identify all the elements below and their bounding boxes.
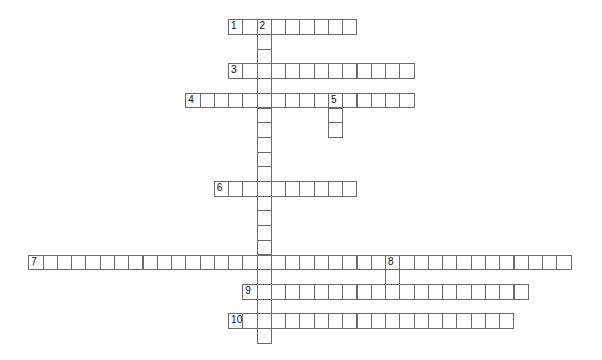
crossword-cell[interactable]: 1 xyxy=(228,19,243,35)
crossword-cell[interactable] xyxy=(442,313,457,329)
crossword-cell[interactable] xyxy=(414,255,429,271)
crossword-cell[interactable] xyxy=(442,255,457,271)
crossword-cell[interactable] xyxy=(271,255,286,271)
crossword-cell[interactable] xyxy=(471,284,486,300)
crossword-cell[interactable] xyxy=(399,313,414,329)
crossword-cell[interactable] xyxy=(357,63,372,79)
crossword-cell[interactable] xyxy=(456,255,471,271)
crossword-cell[interactable] xyxy=(342,19,357,35)
crossword-cell[interactable] xyxy=(385,313,400,329)
crossword-cell[interactable] xyxy=(514,284,529,300)
crossword-cell[interactable] xyxy=(114,255,129,271)
crossword-cell[interactable] xyxy=(371,93,386,109)
crossword-cell[interactable] xyxy=(257,240,272,256)
crossword-cell[interactable] xyxy=(314,181,329,197)
crossword-cell[interactable] xyxy=(314,284,329,300)
crossword-cell[interactable]: 6 xyxy=(214,181,229,197)
crossword-cell[interactable] xyxy=(157,255,172,271)
crossword-cell[interactable] xyxy=(328,63,343,79)
crossword-cell[interactable] xyxy=(257,313,272,329)
crossword-cell[interactable] xyxy=(556,255,571,271)
crossword-cell[interactable] xyxy=(57,255,72,271)
crossword-cell[interactable] xyxy=(285,284,300,300)
crossword-cell[interactable] xyxy=(299,63,314,79)
crossword-cell[interactable] xyxy=(257,152,272,168)
crossword-cell[interactable] xyxy=(285,63,300,79)
crossword-cell[interactable] xyxy=(271,181,286,197)
crossword-cell[interactable] xyxy=(342,93,357,109)
crossword-cell[interactable] xyxy=(328,255,343,271)
crossword-cell[interactable] xyxy=(271,63,286,79)
crossword-cell[interactable] xyxy=(328,108,343,124)
crossword-cell[interactable] xyxy=(399,284,414,300)
crossword-cell[interactable]: 9 xyxy=(242,284,257,300)
crossword-cell[interactable] xyxy=(371,255,386,271)
crossword-cell[interactable] xyxy=(257,108,272,124)
crossword-cell[interactable] xyxy=(342,284,357,300)
crossword-cell[interactable] xyxy=(299,93,314,109)
crossword-cell[interactable] xyxy=(342,63,357,79)
crossword-cell[interactable] xyxy=(257,225,272,241)
crossword-cell[interactable] xyxy=(428,284,443,300)
crossword-cell[interactable] xyxy=(357,284,372,300)
crossword-cell[interactable]: 4 xyxy=(185,93,200,109)
crossword-cell[interactable] xyxy=(271,19,286,35)
crossword-cell[interactable] xyxy=(299,284,314,300)
crossword-cell[interactable] xyxy=(456,284,471,300)
crossword-cell[interactable] xyxy=(328,181,343,197)
crossword-cell[interactable] xyxy=(285,255,300,271)
crossword-cell[interactable] xyxy=(314,19,329,35)
crossword-cell[interactable]: 7 xyxy=(28,255,43,271)
crossword-cell[interactable] xyxy=(399,93,414,109)
crossword-cell[interactable] xyxy=(299,19,314,35)
crossword-cell[interactable] xyxy=(242,313,257,329)
crossword-cell[interactable]: 8 xyxy=(385,255,400,271)
crossword-cell[interactable] xyxy=(228,255,243,271)
crossword-cell[interactable] xyxy=(299,313,314,329)
crossword-cell[interactable] xyxy=(328,19,343,35)
crossword-cell[interactable] xyxy=(314,255,329,271)
crossword-cell[interactable] xyxy=(428,255,443,271)
crossword-cell[interactable] xyxy=(471,255,486,271)
crossword-cell[interactable] xyxy=(399,63,414,79)
crossword-cell[interactable] xyxy=(200,255,215,271)
crossword-cell[interactable] xyxy=(342,313,357,329)
crossword-cell[interactable] xyxy=(314,93,329,109)
crossword-cell[interactable] xyxy=(357,313,372,329)
crossword-cell[interactable] xyxy=(257,78,272,94)
crossword-cell[interactable] xyxy=(385,269,400,285)
crossword-cell[interactable] xyxy=(228,93,243,109)
crossword-cell[interactable] xyxy=(257,284,272,300)
crossword-cell[interactable] xyxy=(271,93,286,109)
crossword-cell[interactable] xyxy=(285,181,300,197)
crossword-cell[interactable] xyxy=(357,93,372,109)
crossword-cell[interactable] xyxy=(499,284,514,300)
crossword-cell[interactable] xyxy=(371,284,386,300)
crossword-cell[interactable] xyxy=(242,181,257,197)
crossword-cell[interactable] xyxy=(485,255,500,271)
crossword-cell[interactable] xyxy=(328,122,343,138)
crossword-cell[interactable] xyxy=(385,63,400,79)
crossword-cell[interactable]: 10 xyxy=(228,313,243,329)
crossword-cell[interactable] xyxy=(242,19,257,35)
crossword-cell[interactable] xyxy=(357,255,372,271)
crossword-cell[interactable] xyxy=(242,63,257,79)
crossword-cell[interactable] xyxy=(242,255,257,271)
crossword-cell[interactable] xyxy=(185,255,200,271)
crossword-cell[interactable] xyxy=(171,255,186,271)
crossword-cell[interactable] xyxy=(514,255,529,271)
crossword-cell[interactable] xyxy=(143,255,158,271)
crossword-cell[interactable] xyxy=(85,255,100,271)
crossword-cell[interactable] xyxy=(528,255,543,271)
crossword-cell[interactable] xyxy=(471,313,486,329)
crossword-cell[interactable] xyxy=(428,313,443,329)
crossword-cell[interactable] xyxy=(456,313,471,329)
crossword-cell[interactable] xyxy=(257,166,272,182)
crossword-cell[interactable]: 3 xyxy=(228,63,243,79)
crossword-cell[interactable] xyxy=(257,269,272,285)
crossword-cell[interactable] xyxy=(342,181,357,197)
crossword-cell[interactable] xyxy=(385,284,400,300)
crossword-cell[interactable] xyxy=(371,313,386,329)
crossword-cell[interactable] xyxy=(271,284,286,300)
crossword-cell[interactable] xyxy=(100,255,115,271)
